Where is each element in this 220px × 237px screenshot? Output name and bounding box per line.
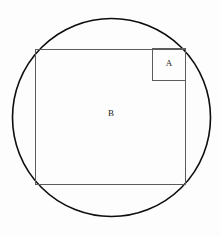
geometry-figure: B A — [0, 0, 220, 237]
square-b-label: B — [108, 108, 114, 118]
square-a-label: A — [166, 58, 173, 68]
figure-canvas: B A — [0, 0, 220, 237]
figure-background — [0, 0, 220, 237]
